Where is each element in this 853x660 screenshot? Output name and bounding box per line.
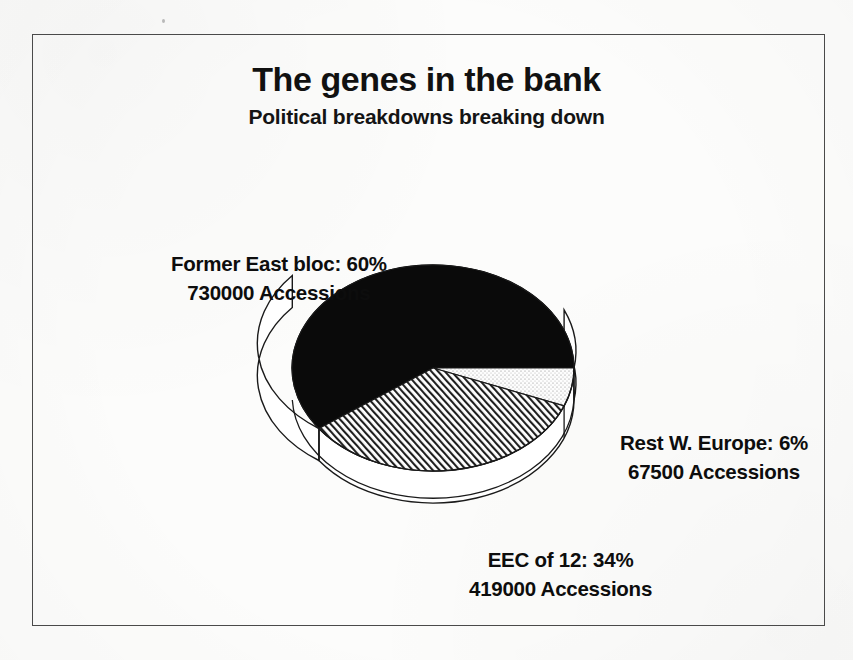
pie-chart-svg: [32, 34, 825, 626]
slide-page: The genes in the bank Political breakdow…: [0, 0, 853, 660]
pie-label-former-east-bloc: Former East bloc: 60% 730000 Accessions: [171, 249, 387, 307]
scan-speck: [162, 19, 165, 23]
pie-label-former-east-bloc-line2: 730000 Accessions: [171, 278, 387, 307]
pie-label-eec-of-12-line2: 419000 Accessions: [469, 574, 652, 603]
pie-label-rest-w-europe: Rest W. Europe: 6% 67500 Accessions: [620, 428, 808, 486]
pie-chart: Former East bloc: 60% 730000 Accessions …: [32, 34, 825, 626]
pie-label-rest-w-europe-line2: 67500 Accessions: [620, 457, 808, 486]
pie-label-rest-w-europe-line1: Rest W. Europe: 6%: [620, 428, 808, 457]
pie-label-former-east-bloc-line1: Former East bloc: 60%: [171, 249, 387, 278]
pie-label-eec-of-12: EEC of 12: 34% 419000 Accessions: [469, 545, 652, 603]
pie-label-eec-of-12-line1: EEC of 12: 34%: [469, 545, 652, 574]
